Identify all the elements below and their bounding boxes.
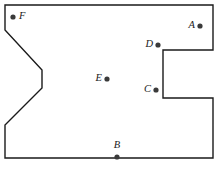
polygon-figure: ABCDEF bbox=[0, 0, 224, 170]
point-label-c: C bbox=[144, 83, 152, 94]
polygon-outline bbox=[5, 5, 213, 158]
point-marker-d bbox=[155, 42, 160, 47]
point-marker-a bbox=[197, 23, 202, 28]
point-marker-e bbox=[104, 76, 109, 81]
point-marker-c bbox=[153, 87, 158, 92]
point-label-d: D bbox=[144, 38, 153, 49]
point-marker-b bbox=[114, 154, 119, 159]
point-label-b: B bbox=[114, 139, 121, 150]
polygon-figure-canvas: ABCDEF bbox=[0, 0, 224, 170]
point-marker-f bbox=[10, 14, 15, 19]
point-label-a: A bbox=[188, 19, 196, 30]
point-label-f: F bbox=[18, 10, 26, 21]
point-label-e: E bbox=[95, 72, 103, 83]
